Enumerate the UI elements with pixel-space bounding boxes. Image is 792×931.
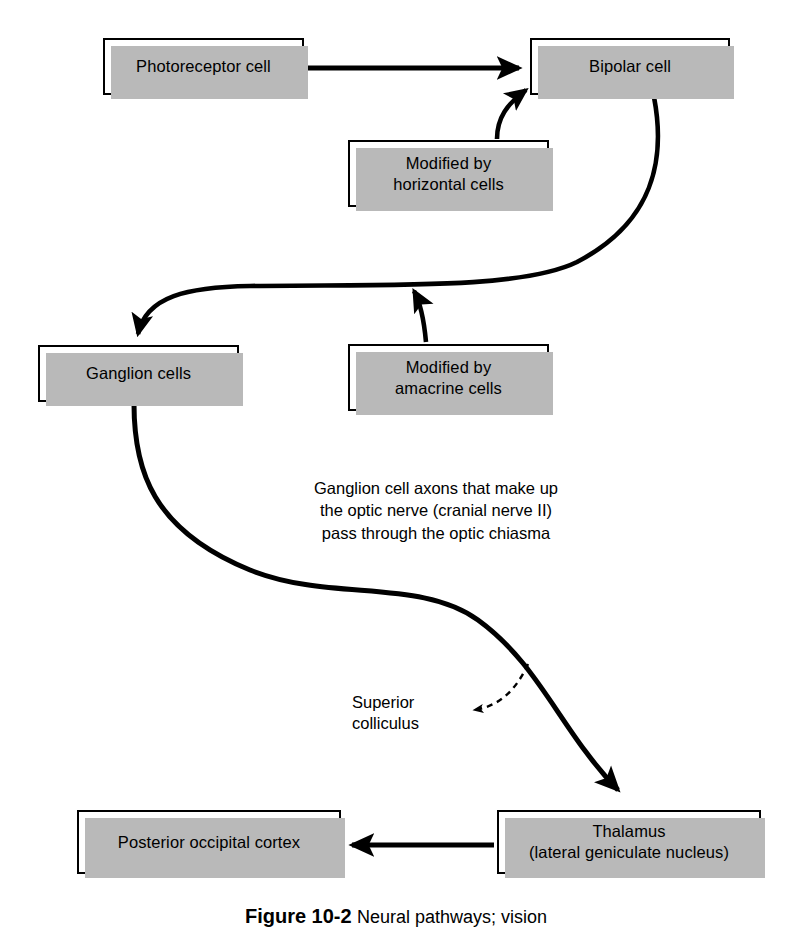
node-photoreceptor-cell[interactable]: Photoreceptor cell: [103, 38, 304, 95]
edge-amacrine-to-pathway: [414, 291, 426, 342]
figure-caption-text: Neural pathways; vision: [357, 907, 547, 927]
node-posterior-occipital-cortex[interactable]: Posterior occipital cortex: [77, 810, 341, 874]
node-thalamus[interactable]: Thalamus (lateral geniculate nucleus): [497, 810, 761, 874]
figure-caption-number: Figure 10-2: [245, 905, 352, 927]
edge-horizontal-to-bipolar: [497, 90, 526, 139]
vision-pathway-diagram: Photoreceptor cell Bipolar cell Modified…: [0, 0, 792, 931]
node-thalamus-label: Thalamus (lateral geniculate nucleus): [523, 821, 735, 862]
node-ganglion-cells[interactable]: Ganglion cells: [38, 345, 239, 402]
node-modified-by-amacrine-cells-label: Modified by amacrine cells: [389, 357, 508, 398]
figure-caption: Figure 10-2 Neural pathways; vision: [0, 905, 792, 928]
edge-bipolar-to-ganglion: [138, 97, 658, 334]
node-modified-by-horizontal-cells-label: Modified by horizontal cells: [387, 153, 510, 194]
node-modified-by-horizontal-cells[interactable]: Modified by horizontal cells: [348, 140, 549, 207]
edge-pathway-to-superior-colliculus: [474, 664, 528, 710]
node-bipolar-cell[interactable]: Bipolar cell: [530, 38, 730, 95]
node-bipolar-cell-label: Bipolar cell: [583, 56, 677, 77]
annotation-superior-colliculus: Superior colliculus: [352, 692, 464, 735]
node-modified-by-amacrine-cells[interactable]: Modified by amacrine cells: [348, 344, 549, 411]
annotation-optic-nerve: Ganglion cell axons that make up the opt…: [286, 477, 586, 544]
node-posterior-occipital-cortex-label: Posterior occipital cortex: [112, 832, 306, 853]
node-photoreceptor-cell-label: Photoreceptor cell: [130, 56, 277, 77]
node-ganglion-cells-label: Ganglion cells: [80, 363, 197, 384]
